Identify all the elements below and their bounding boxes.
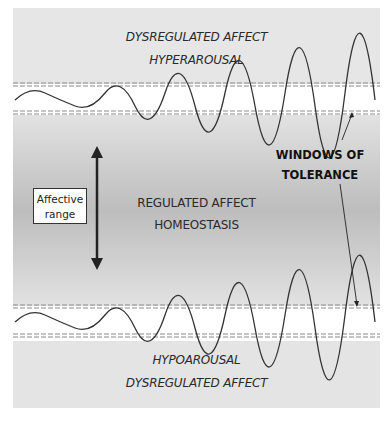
range-box-line-2: range	[34, 207, 86, 222]
callout-line-1: WINDOWS OF	[275, 145, 365, 165]
callout-line-2: TOLERANCE	[275, 165, 365, 185]
diagram-panel: DYSREGULATED AFFECT HYPERAROUSAL REGULAT…	[13, 8, 380, 408]
bottom-zone-label-2: DYSREGULATED AFFECT	[13, 376, 380, 390]
affective-range-box: Affective range	[33, 188, 87, 224]
pointer-arrowhead-icon	[354, 301, 359, 307]
top-zone-label-1: DYSREGULATED AFFECT	[13, 30, 380, 44]
upper-wave	[15, 33, 375, 158]
range-box-line-1: Affective	[34, 192, 86, 207]
bottom-zone-label-1: HYPOAROUSAL	[13, 353, 380, 367]
top-zone-label-2: HYPERAROUSAL	[13, 53, 380, 67]
windows-of-tolerance-callout: WINDOWS OF TOLERANCE	[275, 145, 365, 185]
pointer-arrowhead-icon	[349, 112, 354, 118]
